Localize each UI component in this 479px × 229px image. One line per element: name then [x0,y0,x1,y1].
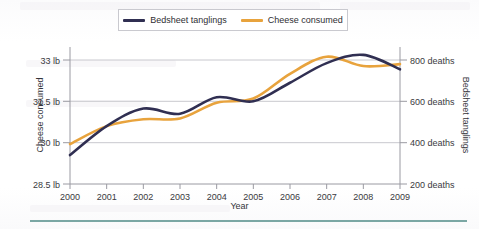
y-axis-left-title: Cheese consumed [35,77,45,152]
legend-item-label: Cheese consumed [268,15,343,25]
y-right-tick-label: 600 deaths [410,97,455,107]
legend-item-cheese-consumed[interactable]: Cheese consumed [241,15,343,25]
y-axis-right-ticks: 800 deaths 600 deaths 400 deaths 200 dea… [400,56,455,190]
legend-item-label: Bedsheet tanglings [150,15,227,25]
chart-canvas: 33 lb 31.5 lb 30 lb 28.5 lb 800 deaths 6… [0,0,479,229]
y-right-tick-label: 200 deaths [410,180,455,190]
data-series-group [70,55,400,155]
legend-item-bedsheet-tanglings[interactable]: Bedsheet tanglings [123,15,227,25]
line-swatch-icon [241,19,263,22]
series-line-bedsheet-tanglings [70,55,400,155]
page-divider-rule [30,220,467,222]
line-chart-figure: 33 lb 31.5 lb 30 lb 28.5 lb 800 deaths 6… [0,0,479,229]
axis-spines [70,47,400,184]
line-swatch-icon [123,19,145,22]
y-right-tick-label: 800 deaths [410,56,455,66]
x-axis-title: Year [0,201,479,211]
chart-legend: Bedsheet tanglings Cheese consumed [118,9,348,31]
x-axis-ticks: 2000200120022003200420052006200720082009 [60,184,410,202]
y-left-tick-label: 28.5 lb [33,180,60,190]
y-left-tick-label: 33 lb [40,56,60,66]
y-axis-right-title: Bedsheet tanglings [462,76,472,153]
y-right-tick-label: 400 deaths [410,138,455,148]
